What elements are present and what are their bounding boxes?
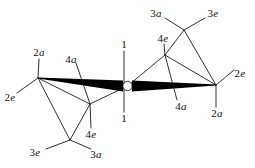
label-3e-left: 3e: [30, 146, 41, 158]
label-position: a: [71, 53, 77, 65]
label-number: 1: [121, 112, 127, 124]
bond-c2left-c3left: [38, 78, 70, 140]
label-position: e: [163, 32, 168, 44]
bond-c4right-to-4a: [165, 55, 177, 100]
label-2a-left: 2a: [33, 46, 44, 58]
label-1-bottom: 1: [121, 112, 127, 124]
label-position: e: [91, 128, 96, 140]
label-position: a: [181, 100, 187, 112]
label-4a-left: 4a: [65, 53, 76, 65]
label-3e-right: 3e: [208, 7, 219, 19]
label-2a-right: 2a: [211, 107, 222, 119]
bond-c2right-c3right: [184, 30, 216, 85]
bond-c2left-to-2e: [17, 78, 38, 93]
label-position: e: [35, 146, 40, 158]
label-4a-right: 4a: [175, 100, 186, 112]
central-carbon-ring-icon: [123, 81, 132, 90]
label-position: a: [96, 148, 102, 160]
label-position: e: [213, 7, 218, 19]
label-2e-left: 2e: [5, 91, 16, 103]
bond-c4left-to-4e: [90, 104, 91, 128]
structure-canvas: [0, 0, 255, 168]
label-3a-left: 3a: [90, 148, 101, 160]
bond-c4right-to-4e: [164, 44, 165, 55]
bond-c2left-to-2a: [38, 59, 39, 78]
bond-c3left-to-3e: [46, 140, 70, 149]
bond-c3right-to-3a: [165, 18, 184, 30]
bond-c3left-to-3a: [70, 140, 91, 149]
bond-c2right-c4right: [165, 55, 216, 85]
label-4e-right: 4e: [158, 32, 169, 44]
bond-c2right-to-2e: [216, 70, 234, 85]
label-2e-right: 2e: [235, 67, 246, 79]
label-position: a: [39, 46, 45, 58]
label-position: e: [240, 67, 245, 79]
label-position: a: [217, 107, 223, 119]
bond-c3right-to-3e: [184, 18, 205, 30]
label-position: a: [156, 7, 162, 19]
label-4e-left: 4e: [86, 128, 97, 140]
chemical-structure-figure: 1 1 2a 2e 4a 4e 3e 3a 4e 3a 3e 2e 2a 4a: [0, 0, 255, 168]
label-1-top: 1: [121, 38, 127, 50]
label-position: e: [10, 91, 15, 103]
label-number: 1: [121, 38, 127, 50]
label-3a-right: 3a: [150, 7, 161, 19]
